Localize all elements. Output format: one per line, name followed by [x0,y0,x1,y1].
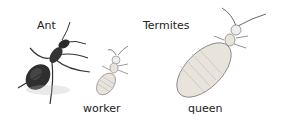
queen-label: queen [188,103,222,114]
worker-termite-illustration [93,46,128,98]
ant-illustration [18,22,90,104]
worker-label: worker [83,103,121,114]
termites-label: Termites [143,20,190,31]
ant-label: Ant [37,20,56,31]
